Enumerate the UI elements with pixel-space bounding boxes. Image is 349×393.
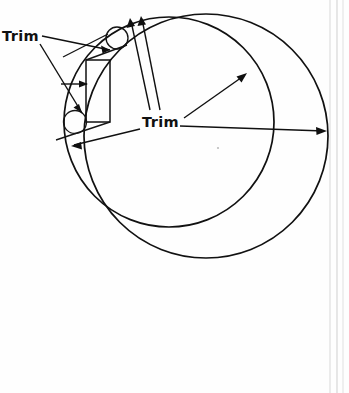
leader-left-trim-lower	[40, 44, 82, 113]
left-trim-label: Trim	[2, 28, 39, 44]
arrowhead-center-trim-inner-radius	[237, 73, 248, 83]
leader-center-trim-upleft	[131, 21, 150, 110]
arrowhead-center-trim-outer-radius	[316, 127, 327, 135]
arrowhead-left-trim-lower	[74, 104, 83, 113]
scan-speck	[217, 147, 219, 149]
leader-center-trim-up	[142, 19, 160, 110]
diagram-page: Trim Trim	[0, 0, 349, 393]
center-trim-label: Trim	[142, 114, 179, 130]
arrowhead-center-trim-lowerleft	[71, 142, 82, 150]
tool-rectangle	[86, 60, 110, 122]
leader-center-trim-outer-radius	[180, 126, 324, 131]
outer-circle	[84, 14, 328, 258]
upper-roller-tangent-lower	[86, 45, 127, 60]
leader-center-trim-inner-radius	[184, 75, 245, 118]
lower-roller-circle	[64, 111, 87, 134]
trim-geometry-diagram: Trim Trim	[0, 0, 349, 393]
